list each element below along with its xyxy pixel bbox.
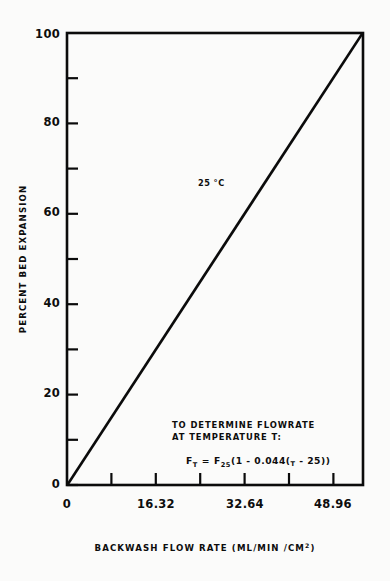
formula-f25-symbol: F bbox=[214, 455, 221, 466]
svg-text:25°C: 25°C bbox=[198, 178, 225, 188]
y-tick-label-0: 0 bbox=[52, 477, 60, 491]
y-axis-title: PERCENT BED EXPANSION bbox=[18, 185, 28, 333]
y-axis-ticks bbox=[67, 78, 78, 485]
svg-text:FT=F25(1 - 0.044(T - 25)): FT=F25(1 - 0.044(T - 25)) bbox=[186, 455, 330, 469]
y-tick-label-20: 20 bbox=[43, 386, 60, 400]
y-tick-labels: 0 20 40 60 80 100 bbox=[35, 27, 60, 491]
y-tick-label-40: 40 bbox=[43, 296, 60, 310]
formula-equals: = bbox=[202, 455, 210, 466]
flowrate-formula: FT=F25(1 - 0.044(T - 25)) bbox=[186, 455, 330, 469]
y-tick-label-80: 80 bbox=[43, 115, 60, 129]
x-axis-title-close: ) bbox=[310, 543, 315, 553]
temperature-value: 25 bbox=[198, 178, 211, 188]
x-tick-label-32: 32.64 bbox=[226, 497, 264, 511]
y-tick-label-100: 100 bbox=[35, 27, 60, 41]
figure-canvas: 0 20 40 60 80 100 0 16.32 32.64 48.96 25… bbox=[0, 0, 390, 581]
x-tick-labels: 0 16.32 32.64 48.96 bbox=[63, 497, 352, 511]
formula-f-symbol: F bbox=[186, 455, 193, 466]
x-axis-ticks bbox=[111, 473, 333, 485]
x-tick-label-0: 0 bbox=[63, 497, 71, 511]
y-tick-label-60: 60 bbox=[43, 205, 60, 219]
note-line-2: AT TEMPERATURE T: bbox=[172, 432, 282, 442]
x-axis-title-unit: ML/MIN /CM bbox=[237, 543, 305, 553]
temperature-annotation: 25°C bbox=[198, 178, 225, 188]
x-axis-title-main: BACKWASH FLOW RATE ( bbox=[95, 543, 237, 553]
temperature-unit: °C bbox=[214, 178, 225, 188]
formula-body-open: (1 - 0.044( bbox=[231, 455, 291, 466]
formula-f-subscript: T bbox=[193, 461, 198, 469]
series-25c bbox=[68, 34, 362, 484]
note-line-1: TO DETERMINE FLOWRATE bbox=[172, 420, 315, 430]
x-tick-label-16: 16.32 bbox=[137, 497, 175, 511]
bed-expansion-chart: 0 20 40 60 80 100 0 16.32 32.64 48.96 25… bbox=[0, 0, 390, 581]
x-axis-title: BACKWASH FLOW RATE (ML/MIN /CM2) bbox=[95, 542, 316, 553]
y-axis-title-text: PERCENT BED EXPANSION bbox=[18, 185, 28, 333]
formula-body-rest: - 25)) bbox=[296, 455, 331, 466]
formula-f25-subscript: 25 bbox=[221, 461, 231, 469]
flowrate-note: TO DETERMINE FLOWRATE AT TEMPERATURE T: bbox=[172, 420, 315, 442]
svg-text:BACKWASH FLOW RATE (ML/MIN /CM: BACKWASH FLOW RATE (ML/MIN /CM2) bbox=[95, 542, 316, 553]
x-tick-label-48: 48.96 bbox=[314, 497, 352, 511]
